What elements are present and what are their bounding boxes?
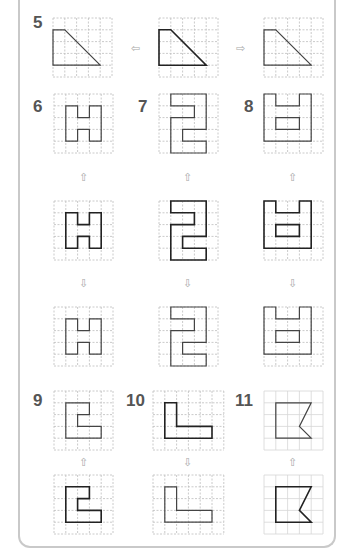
shape-outline <box>66 319 101 354</box>
problem-number: 8 <box>244 98 253 115</box>
shape-outline <box>66 213 101 248</box>
grid-p10-top <box>152 390 225 451</box>
problem-number: 6 <box>33 98 42 115</box>
arrow-up-icon: ⇧ <box>79 172 88 183</box>
problem-number: 10 <box>126 392 145 409</box>
arrow-up-icon: ⇧ <box>288 172 297 183</box>
arrow-down-icon: ⇩ <box>183 457 192 468</box>
grid-p11-top <box>263 390 324 451</box>
shape-outline <box>66 106 101 141</box>
arrow-up-icon: ⇧ <box>183 172 192 183</box>
shape-outline <box>66 487 101 522</box>
grid-p8-bot <box>263 306 324 367</box>
shape-outline <box>276 487 311 522</box>
arrow-up-icon: ⇧ <box>79 457 88 468</box>
arrow-right-icon: ⇨ <box>236 43 245 54</box>
grid-p7-mid <box>158 200 219 261</box>
arrow-down-icon: ⇩ <box>288 278 297 289</box>
grid-p9-top <box>53 390 114 451</box>
shape-outline <box>276 403 311 438</box>
grid-p10-bot <box>152 474 225 535</box>
grid-p5-right <box>263 17 324 78</box>
arrow-left-icon: ⇦ <box>131 43 140 54</box>
problem-number: 9 <box>33 392 42 409</box>
grid-p6-bot <box>53 306 114 367</box>
problem-number: 11 <box>235 392 253 409</box>
grid-p9-bot <box>53 474 114 535</box>
problem-number: 7 <box>138 98 147 115</box>
grid-p5-left <box>52 17 113 78</box>
grid-p6-top <box>53 93 114 154</box>
problem-number: 5 <box>33 14 42 31</box>
grid-p8-mid <box>263 200 324 261</box>
arrow-up-icon: ⇧ <box>288 457 297 468</box>
shape-outline <box>171 307 206 366</box>
arrow-down-icon: ⇩ <box>183 278 192 289</box>
grid-p7-bot <box>158 306 219 367</box>
shape-outline <box>171 94 206 153</box>
grid-p8-top <box>263 93 324 154</box>
arrow-down-icon: ⇩ <box>79 278 88 289</box>
grid-p7-top <box>158 93 219 154</box>
grid-p5-center <box>158 17 219 78</box>
grid-p6-mid <box>53 200 114 261</box>
grid-p11-bot <box>263 474 324 535</box>
shape-outline <box>66 403 101 438</box>
shape-outline <box>171 201 206 260</box>
